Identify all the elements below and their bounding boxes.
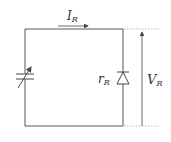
diode-icon xyxy=(117,72,129,84)
current-label: IR xyxy=(66,9,78,24)
circuit-diagram: IR rR VR xyxy=(0,0,171,142)
resistance-label: rR xyxy=(98,72,110,87)
voltage-label: VR xyxy=(147,72,162,88)
